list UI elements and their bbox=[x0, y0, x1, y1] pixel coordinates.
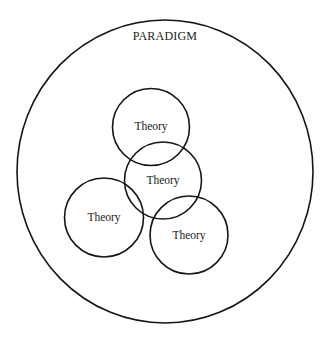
paradigm-theory-diagram: PARADIGM Theory Theory Theory Theory bbox=[0, 0, 326, 338]
paradigm-label: PARADIGM bbox=[133, 29, 198, 43]
theory-label-left: Theory bbox=[87, 211, 120, 224]
theory-label-top: Theory bbox=[134, 120, 167, 133]
theory-label-bottom-right: Theory bbox=[172, 229, 205, 242]
background bbox=[0, 0, 326, 338]
theory-label-center: Theory bbox=[146, 174, 179, 187]
